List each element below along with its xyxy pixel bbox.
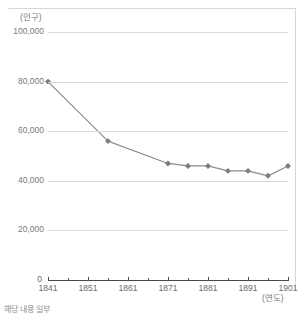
x-tick-1891: [248, 277, 249, 281]
x-minor-tick-1886: [228, 278, 229, 281]
x-minor-tick-1846: [68, 278, 69, 281]
gridline-100000: [48, 32, 288, 33]
data-point-1886: [225, 168, 231, 174]
x-minor-tick-1856: [108, 278, 109, 281]
y-axis-tick-labels: 20,00040,00060,00080,000100,000: [0, 32, 44, 280]
gridline-60000: [48, 131, 288, 132]
x-tick-label-1881: 1881: [199, 283, 218, 293]
data-point-1881: [205, 163, 211, 169]
x-tick-label-1851: 1851: [79, 283, 98, 293]
x-tick-1901: [288, 277, 289, 281]
x-tick-label-1841: 1841: [39, 283, 58, 293]
x-tick-1841: [48, 277, 49, 281]
figure-caption: 해당 내용 일부: [4, 305, 50, 314]
y-tick-label-40000: 40,000: [18, 176, 44, 185]
y-axis-label: (인구): [20, 12, 42, 22]
x-minor-tick-1866: [148, 278, 149, 281]
x-tick-1871: [168, 277, 169, 281]
y-axis-zero-label: 0: [30, 274, 42, 284]
x-tick-label-1891: 1891: [239, 283, 258, 293]
x-axis-tick-labels: 1841185118611871188118911901: [0, 283, 304, 295]
x-tick-1851: [88, 277, 89, 281]
population-line-chart: (인구) 20,00040,00060,00080,000100,000 184…: [0, 0, 304, 314]
x-tick-1881: [208, 277, 209, 281]
data-point-1876: [185, 163, 191, 169]
x-minor-tick-1876: [188, 278, 189, 281]
x-tick-label-1861: 1861: [119, 283, 138, 293]
x-tick-1861: [128, 277, 129, 281]
data-point-1891: [245, 168, 251, 174]
y-tick-label-100000: 100,000: [13, 27, 44, 36]
data-point-1896: [265, 173, 271, 179]
x-axis-label: (연도): [262, 293, 284, 303]
x-axis-ticks: [48, 277, 289, 281]
gridline-80000: [48, 82, 288, 83]
y-tick-label-60000: 60,000: [18, 126, 44, 135]
series-markers: [45, 79, 291, 179]
gridline-40000: [48, 181, 288, 182]
data-point-1871: [165, 160, 171, 166]
plot-area: [48, 32, 288, 280]
series-line-population: [48, 32, 288, 280]
gridline-20000: [48, 230, 288, 231]
x-minor-tick-1896: [268, 278, 269, 281]
y-tick-label-80000: 80,000: [18, 77, 44, 86]
x-tick-label-1871: 1871: [159, 283, 178, 293]
data-point-1901: [285, 163, 291, 169]
y-tick-label-20000: 20,000: [18, 225, 44, 234]
x-tick-label-1901: 1901: [279, 283, 298, 293]
